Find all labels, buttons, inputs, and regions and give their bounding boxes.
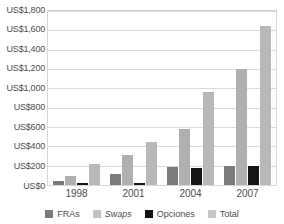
- bar-group: [167, 11, 214, 185]
- legend-label: Opciones: [157, 209, 195, 219]
- y-axis-tick-label: US$400: [0, 142, 45, 151]
- bar-opciones-2004: [191, 168, 202, 185]
- bar-swaps-2007: [236, 69, 247, 185]
- bar-group: [110, 11, 157, 185]
- bar-chart: US$1,800 US$1,600 US$1,400 US$1,200 US$1…: [0, 0, 284, 224]
- bar-opciones-2001: [134, 183, 145, 185]
- legend-label: Swaps: [105, 209, 132, 219]
- bar-total-2007: [260, 26, 271, 186]
- y-axis-tick-label: US$1,800: [0, 6, 45, 15]
- x-axis-tick-label: 2007: [219, 188, 276, 200]
- bar-swaps-2001: [122, 155, 133, 185]
- y-axis-labels: US$1,800 US$1,600 US$1,400 US$1,200 US$1…: [0, 0, 45, 224]
- bar-fras-2001: [110, 174, 121, 185]
- legend-swatch-icon: [93, 210, 101, 218]
- y-axis-tick-label: US$800: [0, 103, 45, 112]
- bar-fras-2004: [167, 167, 178, 185]
- x-axis-tick-label: 2004: [162, 188, 219, 200]
- bar-swaps-1998: [65, 176, 76, 185]
- legend-swatch-icon: [45, 210, 53, 218]
- legend-item-opciones[interactable]: Opciones: [145, 209, 195, 219]
- chart-legend: FRAsSwapsOpcionesTotal: [0, 206, 284, 222]
- bar-opciones-1998: [77, 183, 88, 185]
- legend-item-swaps[interactable]: Swaps: [93, 209, 132, 219]
- bar-total-2001: [146, 142, 157, 185]
- bar-opciones-2007: [248, 166, 259, 185]
- x-axis-tick-label: 1998: [48, 188, 105, 200]
- bar-total-2004: [203, 92, 214, 185]
- legend-label: FRAs: [57, 209, 80, 219]
- bar-fras-1998: [53, 181, 64, 185]
- y-axis-tick-label: US$600: [0, 123, 45, 132]
- y-axis-tick-label: US$1,000: [0, 84, 45, 93]
- y-axis-tick-label: US$200: [0, 162, 45, 171]
- y-axis-tick-label: US$1,600: [0, 25, 45, 34]
- bar-series-layer: [48, 11, 276, 185]
- legend-label: Total: [220, 209, 239, 219]
- bar-swaps-2004: [179, 129, 190, 185]
- x-axis-labels: 1998200120042007: [48, 188, 276, 202]
- y-axis-tick-label: US$1,400: [0, 45, 45, 54]
- legend-item-total[interactable]: Total: [208, 209, 239, 219]
- y-axis-tick-label: US$0: [0, 182, 45, 191]
- bar-total-1998: [89, 164, 100, 185]
- legend-item-fras[interactable]: FRAs: [45, 209, 80, 219]
- legend-swatch-icon: [145, 210, 153, 218]
- x-axis-tick-label: 2001: [105, 188, 162, 200]
- bar-fras-2007: [224, 166, 235, 185]
- bar-group: [53, 11, 100, 185]
- y-axis-tick-label: US$1,200: [0, 64, 45, 73]
- bar-group: [224, 11, 271, 185]
- legend-swatch-icon: [208, 210, 216, 218]
